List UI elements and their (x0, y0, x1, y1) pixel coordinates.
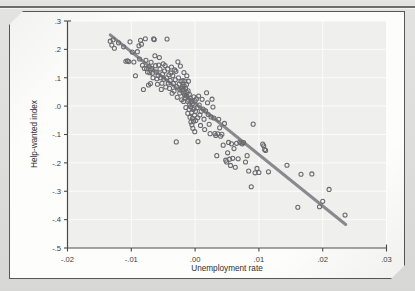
y-tick-label: .2 (55, 45, 61, 54)
x-tick-labels: -.02-.01.00.01.02.03 (61, 255, 392, 264)
y-tick-label: -.3 (52, 187, 61, 196)
y-tick-label: -.2 (52, 159, 61, 168)
y-tick-label: -.1 (52, 130, 61, 139)
y-tick-label: -.5 (52, 244, 61, 253)
y-tick-label: -.4 (52, 215, 61, 224)
x-axis-title: Unemployment rate (191, 264, 263, 273)
x-tick-label: .01 (254, 255, 265, 264)
y-tick-label: .3 (55, 17, 61, 26)
y-tick-label: .0 (55, 102, 61, 111)
x-tick-label: .03 (381, 255, 392, 264)
y-tick-labels: .3.2.1.0-.1-.2-.3-.4-.5 (52, 17, 61, 253)
x-tick-label: .00 (190, 255, 201, 264)
y-tick-label: .1 (55, 74, 61, 83)
x-tick-label: .02 (317, 255, 328, 264)
x-tick-label: -.02 (61, 255, 74, 264)
scatter-chart: -.02-.01.00.01.02.03 .3.2.1.0-.1-.2-.3-.… (0, 0, 415, 291)
x-tick-label: -.01 (125, 255, 138, 264)
y-axis-title: Help-wanted index (30, 100, 39, 168)
